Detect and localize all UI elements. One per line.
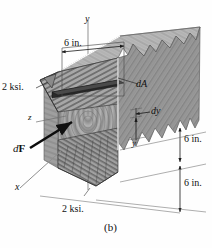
figure-caption: (b): [104, 222, 117, 233]
stress-label-top: 2 ksi.: [2, 82, 24, 92]
differential-y-label: dy: [151, 106, 160, 116]
force-label-vector: F: [19, 142, 26, 154]
leader-stress-bottom: [84, 188, 90, 196]
dimension-depth-lower-label: 6 in.: [184, 178, 202, 188]
axis-z-label: z: [28, 113, 32, 122]
axis-x-label: x: [15, 182, 19, 192]
stress-label-bottom: 2 ksi.: [62, 204, 84, 214]
force-label-dF: dF: [13, 143, 25, 154]
area-label-dA: dA: [136, 79, 147, 89]
axis-y-label: y: [85, 14, 89, 24]
figure-container: y x z 6 in. 2 ksi. 2 ksi. dF dA dy y 6 i…: [0, 0, 212, 248]
coordinate-y-label: y: [132, 139, 136, 148]
axis-x: [20, 150, 62, 188]
dimension-width-label: 6 in.: [64, 38, 82, 48]
beam-stress-diagram: [0, 0, 212, 248]
dimension-depth-upper-label: 6 in.: [184, 134, 202, 144]
